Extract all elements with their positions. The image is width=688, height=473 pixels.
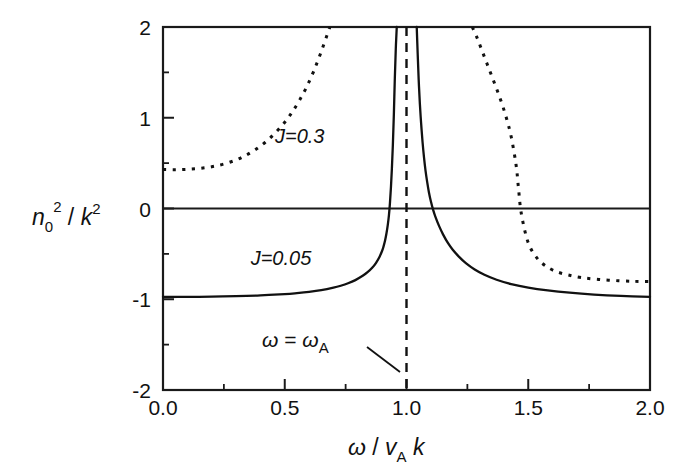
annotation-omega: ω	[262, 328, 278, 351]
x-title-k: k	[413, 434, 426, 460]
curve-j03-left-branch	[163, 27, 330, 170]
x-title-omega: ω	[348, 434, 366, 460]
y-tick-label: -1	[132, 288, 151, 311]
x-tick-label: 0.5	[270, 396, 299, 419]
annotation-leader-line	[367, 347, 400, 372]
resonance-annotation: ω = ωA	[262, 328, 329, 356]
x-title-slash: /	[366, 434, 385, 460]
y-title-slash: /	[61, 204, 80, 230]
x-tick-label: 0.0	[148, 396, 177, 419]
x-tick-label: 1.5	[514, 396, 543, 419]
y-axis-title: n02 / k2	[32, 198, 101, 235]
curve-j03-right-branch	[472, 27, 650, 282]
y-title-sup2a: 2	[53, 198, 61, 215]
y-axis-ticks	[163, 27, 174, 390]
y-title-sub0: 0	[45, 218, 53, 235]
curve-label-j005: J=0.05	[250, 247, 312, 269]
y-tick-label: 0	[139, 198, 151, 221]
x-axis-title: ω / vA k	[348, 434, 426, 465]
dispersion-plot: 210-1-2 0.00.51.01.52.0 J=0.3 J=0.05 ω =…	[0, 0, 688, 473]
x-title-sub-a: A	[397, 448, 407, 465]
y-title-sup2b: 2	[92, 200, 100, 217]
y-tick-label: 1	[139, 107, 151, 130]
x-tick-label: 1.0	[392, 396, 421, 419]
annotation-equals: =	[278, 328, 302, 351]
curve-label-j03: J=0.3	[274, 125, 324, 147]
annotation-omega2: ω	[302, 328, 318, 351]
y-axis-tick-labels: 210-1-2	[132, 16, 151, 402]
y-tick-label: 2	[139, 16, 151, 39]
x-tick-label: 2.0	[635, 396, 664, 419]
x-axis-tick-labels: 0.00.51.01.52.0	[148, 396, 664, 419]
curve-j005-right-branch	[417, 27, 650, 297]
y-title-n: n	[32, 204, 45, 230]
figure-container: 210-1-2 0.00.51.01.52.0 J=0.3 J=0.05 ω =…	[0, 0, 688, 473]
annotation-sub-a: A	[319, 339, 329, 356]
